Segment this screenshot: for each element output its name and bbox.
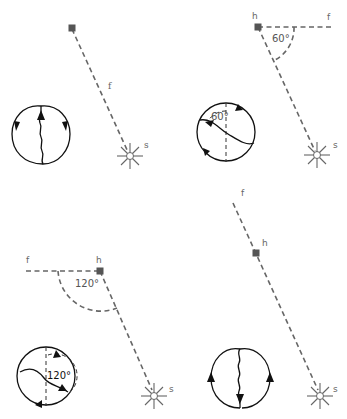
food-label: f <box>241 188 245 198</box>
hive-marker <box>97 268 104 275</box>
panel-1: f s <box>12 25 149 170</box>
panel-3: h f 120° s 120° <box>17 255 174 409</box>
sun-icon <box>141 383 167 409</box>
hive-marker <box>253 250 260 257</box>
hive-label: h <box>262 238 268 248</box>
hive-sun-line <box>72 29 128 152</box>
hive-marker <box>255 24 262 31</box>
sun-icon <box>304 142 330 168</box>
food-label: f <box>26 255 30 265</box>
hive-label: h <box>252 11 258 21</box>
panel-4: f h s <box>207 188 338 409</box>
arrow-icon <box>37 110 45 120</box>
comb-angle-label: 60° <box>211 111 229 122</box>
sun-label: s <box>144 140 149 150</box>
hive-marker <box>69 25 76 32</box>
angle-label: 60° <box>272 33 290 44</box>
food-hive-sun-line <box>233 203 318 390</box>
comb-angle-label: 120° <box>47 370 71 381</box>
food-label: f <box>327 12 331 22</box>
arrow-icon <box>236 394 244 404</box>
sun-icon <box>307 383 333 409</box>
angle-label: 120° <box>75 278 99 289</box>
waggle-dance-figure <box>207 349 274 408</box>
arrow-icon <box>14 121 20 131</box>
sun-label: s <box>169 384 174 394</box>
panel-2: h f 60° s 60° <box>197 11 338 168</box>
waggle-dance-figure: 120° <box>17 347 77 408</box>
sun-label: s <box>333 140 338 150</box>
arrow-icon <box>35 400 42 408</box>
arrow-icon <box>266 372 274 382</box>
waggle-dance-diagram: f s h f 60° s <box>0 0 347 419</box>
sun-label: s <box>333 384 338 394</box>
hive-sun-line <box>258 27 315 151</box>
hive-label: h <box>96 255 102 265</box>
arrow-icon <box>62 121 68 131</box>
sun-icon <box>117 143 143 169</box>
hive-sun-line <box>100 271 152 390</box>
waggle-dance-figure: 60° <box>197 103 255 162</box>
waggle-dance-figure <box>12 106 70 164</box>
food-label: f <box>108 81 112 91</box>
arrow-icon <box>207 372 215 382</box>
